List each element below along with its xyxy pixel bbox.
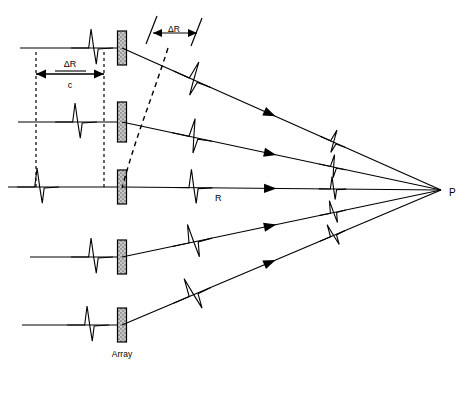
drc-arrow-left <box>36 69 46 78</box>
ray-pulse-near-2-trace <box>169 115 216 157</box>
source-pulse-4-trace <box>71 238 113 273</box>
delta-r-arrow-left <box>153 29 162 37</box>
ray-arrowhead-2 <box>263 148 276 157</box>
ray-1 <box>122 48 441 190</box>
ray-line-4 <box>122 190 441 257</box>
delta-r-label: ΔR <box>168 24 180 34</box>
ray-pulse-far-1-trace <box>316 125 350 157</box>
wavefront-arc <box>122 48 168 188</box>
rays-group <box>122 48 441 325</box>
ray-4 <box>122 190 441 262</box>
array-row-2 <box>18 102 127 142</box>
array-rows-group <box>8 29 127 342</box>
figure-canvas: P R Array ΔR ΔR c <box>0 0 470 394</box>
ray-pulse-far-3-trace <box>319 176 346 199</box>
ray-pulse-far-3 <box>319 176 346 199</box>
ray-5 <box>122 190 441 325</box>
source-pulse-2 <box>55 103 97 138</box>
ray-pulse-near-4-trace <box>169 220 216 262</box>
ray-pulse-far-1 <box>316 125 350 157</box>
delta-r-over-c-denominator: c <box>68 80 73 90</box>
source-pulse-3-trace <box>17 168 59 203</box>
ray-pulse-near-1 <box>167 54 218 102</box>
source-pulse-5 <box>67 306 109 341</box>
ray-line-1 <box>122 48 441 190</box>
range-label: R <box>215 193 222 203</box>
ray-arrowhead-4 <box>263 223 276 232</box>
ray-pulse-far-5-trace <box>315 219 349 251</box>
drc-arrow-right <box>94 69 104 78</box>
ray-line-2 <box>122 122 441 190</box>
delta-r-over-c-bracket <box>36 69 104 78</box>
source-pulse-3 <box>17 168 59 203</box>
delta-r-over-c-numerator: ΔR <box>64 59 77 69</box>
ray-pulse-near-1-trace <box>167 54 218 102</box>
focus-point-label: P <box>449 187 456 198</box>
ray-pulse-near-4 <box>169 220 216 262</box>
ray-pulse-near-3 <box>172 169 213 203</box>
ray-line-5 <box>122 190 441 325</box>
ray-arrowhead-1 <box>262 107 275 116</box>
array-row-4 <box>30 238 127 274</box>
delta-r-tick-left <box>146 16 157 44</box>
ray-pulse-near-5-trace <box>166 270 217 317</box>
array-row-3 <box>8 168 127 204</box>
source-pulse-1 <box>71 29 113 64</box>
ray-line-3 <box>122 187 441 190</box>
source-pulse-1-trace <box>71 29 113 64</box>
array-label: Array <box>112 349 133 359</box>
ray-pulse-far-5 <box>315 219 349 251</box>
ray-arrowhead-5 <box>262 260 275 269</box>
ray-pulse-far-2 <box>317 152 348 180</box>
ray-2 <box>122 115 441 190</box>
source-pulse-2-trace <box>55 103 97 138</box>
ray-3 <box>122 169 441 203</box>
ray-pulse-far-2-trace <box>317 152 348 180</box>
ray-arrowhead-3 <box>264 184 277 193</box>
source-pulse-4 <box>71 238 113 273</box>
ray-pulse-far-4 <box>317 198 348 226</box>
ray-pulse-near-5 <box>166 270 217 317</box>
array-row-5 <box>22 306 127 342</box>
ray-pulse-far-4-trace <box>317 198 348 226</box>
ray-pulse-near-2 <box>169 115 216 157</box>
source-pulse-5-trace <box>67 306 109 341</box>
ray-pulse-near-3-trace <box>172 169 213 203</box>
array-focusing-diagram: P R Array ΔR ΔR c <box>0 0 470 394</box>
